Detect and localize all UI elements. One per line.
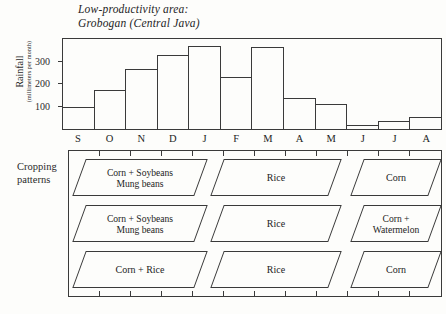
month-label-7: A <box>284 132 316 146</box>
x-axis-month-labels: SONDJFMAMJJA <box>62 132 442 146</box>
y-axis-label-sub: (millimeters per month) <box>25 24 33 120</box>
bar-series <box>63 39 441 129</box>
cropping-row-1: Corn + Soybeans Mung beansRiceCorn + Wat… <box>69 205 441 245</box>
panel-tick-3 <box>162 151 193 156</box>
cropping-cell-label: Rice <box>218 206 334 241</box>
cropping-cell-label: Corn + Soybeans Mung beans <box>80 160 200 195</box>
panel-top-ticks <box>69 151 441 156</box>
cropping-cell-r1-c0: Corn + Soybeans Mung beans <box>72 205 207 242</box>
month-label-6: M <box>252 132 284 146</box>
cropping-row-0: Corn + Soybeans Mung beansRiceCorn <box>69 159 441 199</box>
figure-title: Low-productivity area: Grobogan (Central… <box>78 3 200 30</box>
bar-j-9 <box>346 125 379 130</box>
y-axis-label: Rainfall (millimeters per month) <box>14 24 33 120</box>
panel-tick-8 <box>317 151 348 156</box>
cropping-cell-label: Rice <box>218 252 334 287</box>
cropping-cell-r2-c2: Corn <box>350 251 441 288</box>
cropping-cell-label: Corn + Watermelon <box>358 206 434 241</box>
bar-m-8 <box>315 104 348 129</box>
bar-o-1 <box>94 90 127 129</box>
panel-tick-4 <box>193 151 224 156</box>
month-label-1: O <box>94 132 126 146</box>
month-label-11: A <box>410 132 442 146</box>
chart-plot-area: 100200300 <box>62 38 442 130</box>
panel-tick-10 <box>379 151 410 156</box>
cropping-row-2: Corn + RiceRiceCorn <box>69 251 441 291</box>
bar-d-3 <box>157 55 190 129</box>
bar-n-2 <box>125 69 158 129</box>
panel-tick-7 <box>286 151 317 156</box>
y-tick-100: 100 <box>58 106 63 107</box>
panel-tick-5 <box>224 151 255 156</box>
panel-tick-6 <box>255 151 286 156</box>
panel-tick-9 <box>348 151 379 156</box>
month-label-8: M <box>315 132 347 146</box>
cropping-patterns-panel: Corn + Soybeans Mung beansRiceCornCorn +… <box>68 150 442 297</box>
panel-tick-0 <box>69 151 100 156</box>
y-tick-label-100: 100 <box>35 102 50 112</box>
bar-j-4 <box>188 46 221 129</box>
rainfall-chart: Rainfall (millimeters per month) 1002003… <box>0 36 446 144</box>
cropping-cell-label: Corn + Rice <box>80 252 200 287</box>
cropping-cell-label: Corn <box>358 252 434 287</box>
cropping-cell-label: Corn <box>358 160 434 195</box>
month-label-10: J <box>379 132 411 146</box>
cropping-cell-r0-c0: Corn + Soybeans Mung beans <box>72 159 207 196</box>
bar-m-6 <box>251 47 284 129</box>
cropping-cell-r0-c1: Rice <box>210 159 341 196</box>
bar-f-5 <box>220 77 253 129</box>
y-tick-200: 200 <box>58 83 63 84</box>
month-label-0: S <box>62 132 94 146</box>
panel-tick-11 <box>410 151 441 156</box>
month-label-2: N <box>125 132 157 146</box>
cropping-cell-r1-c2: Corn + Watermelon <box>350 205 441 242</box>
cropping-rows: Corn + Soybeans Mung beansRiceCornCorn +… <box>69 157 441 293</box>
month-label-4: J <box>189 132 221 146</box>
bar-s-0 <box>63 107 95 130</box>
y-tick-300: 300 <box>58 61 63 62</box>
panel-tick-2 <box>131 151 162 156</box>
y-tick-label-300: 300 <box>35 57 50 67</box>
rainfall-cropping-figure: Low-productivity area: Grobogan (Central… <box>0 0 446 314</box>
cropping-cell-r0-c2: Corn <box>350 159 441 196</box>
y-tick-label-200: 200 <box>35 79 50 89</box>
cropping-cell-r2-c0: Corn + Rice <box>72 251 207 288</box>
panel-tick-1 <box>100 151 131 156</box>
cropping-cell-r2-c1: Rice <box>210 251 341 288</box>
month-label-3: D <box>157 132 189 146</box>
cropping-cell-label: Rice <box>218 160 334 195</box>
cropping-cell-r1-c1: Rice <box>210 205 341 242</box>
bar-j-10 <box>378 121 411 129</box>
cropping-cell-label: Corn + Soybeans Mung beans <box>80 206 200 241</box>
bar-a-11 <box>409 117 441 129</box>
month-label-9: J <box>347 132 379 146</box>
bar-a-7 <box>283 98 316 130</box>
y-axis-label-main: Rainfall <box>14 55 25 87</box>
month-label-5: F <box>220 132 252 146</box>
